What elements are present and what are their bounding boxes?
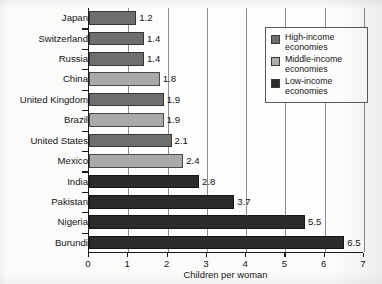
bar-burundi: [89, 236, 344, 250]
legend-item-middle-income: Middle-incomeeconomies: [271, 55, 363, 74]
category-label-japan: Japan: [4, 12, 88, 24]
legend-swatch-icon: [271, 57, 280, 66]
bar-row: 2.4: [89, 151, 363, 171]
legend-swatch-icon: [271, 35, 280, 44]
bar-mexico: [89, 154, 183, 168]
bar-row: 2.8: [89, 171, 363, 191]
legend-item-low-income: Low-incomeeconomies: [271, 77, 363, 96]
bar-value-label: 2.4: [186, 153, 199, 168]
category-label-united-states: United States: [4, 135, 88, 147]
x-axis: 01234567: [88, 253, 363, 269]
bar-row: 2.1: [89, 131, 363, 151]
category-label-switzerland: Switzerland: [4, 33, 88, 45]
category-label-mexico: Mexico: [4, 155, 88, 167]
category-label-burundi: Burundi: [4, 237, 88, 249]
bar-pakistan: [89, 195, 234, 209]
category-label-brazil: Brazil: [4, 114, 88, 126]
legend-label: Low-incomeeconomies: [285, 77, 332, 96]
bar-india: [89, 175, 199, 189]
legend-swatch-icon: [271, 79, 280, 88]
bar-row: 1.9: [89, 110, 363, 130]
category-label-pakistan: Pakistan: [4, 196, 88, 208]
bar-value-label: 3.7: [237, 194, 250, 209]
bar-china: [89, 72, 160, 86]
bar-value-label: 2.1: [175, 133, 188, 148]
bar-row: 1.2: [89, 8, 363, 28]
bar-value-label: 6.5: [347, 235, 360, 250]
bar-nigeria: [89, 215, 305, 229]
category-label-united-kingdom: United Kingdom: [4, 94, 88, 106]
bar-russia: [89, 52, 144, 66]
bar-united-states: [89, 134, 172, 148]
category-label-nigeria: Nigeria: [4, 216, 88, 228]
bar-japan: [89, 11, 136, 25]
bar-chart: JapanSwitzerlandRussiaChinaUnited Kingdo…: [0, 0, 382, 284]
bar-row: 6.5: [89, 233, 363, 253]
bar-row: 5.5: [89, 212, 363, 232]
bar-switzerland: [89, 32, 144, 46]
legend-label: High-incomeeconomies: [285, 33, 334, 52]
bar-value-label: 2.8: [202, 174, 215, 189]
bar-value-label: 1.9: [167, 92, 180, 107]
bar-value-label: 1.8: [163, 71, 176, 86]
chart-legend: High-incomeeconomiesMiddle-incomeeconomi…: [265, 27, 368, 103]
bar-value-label: 1.9: [167, 112, 180, 127]
category-label-russia: Russia: [4, 53, 88, 65]
bar-united-kingdom: [89, 93, 164, 107]
category-label-india: India: [4, 176, 88, 188]
legend-item-high-income: High-incomeeconomies: [271, 33, 363, 52]
bar-value-label: 1.4: [147, 51, 160, 66]
bar-value-label: 5.5: [308, 214, 321, 229]
legend-label: Middle-incomeeconomies: [285, 55, 342, 74]
bar-brazil: [89, 113, 164, 127]
bar-value-label: 1.4: [147, 31, 160, 46]
category-axis: JapanSwitzerlandRussiaChinaUnited Kingdo…: [0, 8, 88, 253]
bar-value-label: 1.2: [139, 10, 152, 25]
bar-row: 3.7: [89, 192, 363, 212]
x-axis-title: Children per woman: [88, 269, 363, 280]
category-label-china: China: [4, 73, 88, 85]
